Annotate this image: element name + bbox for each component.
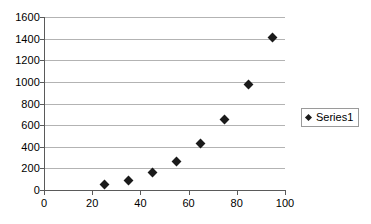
plot-area (44, 17, 285, 190)
gridline (44, 60, 285, 61)
gridline (44, 39, 285, 40)
x-axis-tick (92, 191, 93, 195)
y-axis-tick-label: 1200 (4, 55, 40, 66)
x-axis-tick (237, 191, 238, 195)
y-axis-tick-label: 1000 (4, 77, 40, 88)
gridline (44, 104, 285, 105)
y-axis-tick (40, 168, 44, 169)
data-point (172, 156, 182, 166)
data-point (268, 33, 278, 43)
y-axis-tick-label: 600 (4, 120, 40, 131)
y-axis-tick (40, 17, 44, 18)
y-axis-tick (40, 147, 44, 148)
data-point (220, 115, 230, 125)
y-axis-tick (40, 39, 44, 40)
x-axis-tick-label: 100 (265, 198, 305, 209)
legend-entry-label: Series1 (316, 111, 353, 123)
y-axis-tick-label: 800 (4, 99, 40, 110)
gridline (44, 168, 285, 169)
x-axis-tick-label: 80 (217, 198, 257, 209)
x-axis-tick (285, 191, 286, 195)
x-axis-line (44, 190, 286, 191)
x-axis-tick-label: 40 (120, 198, 160, 209)
y-axis-tick-label: 1600 (4, 12, 40, 23)
y-axis-tick-label: 200 (4, 163, 40, 174)
scatter-chart: 02004006008001000120014001600 0204060801… (0, 0, 371, 224)
y-axis-tick-label: 0 (4, 185, 40, 196)
data-point (123, 175, 133, 185)
y-axis-tick-label: 400 (4, 142, 40, 153)
gridline (44, 125, 285, 126)
data-point (99, 180, 109, 190)
x-axis-tick-label: 60 (169, 198, 209, 209)
y-axis-tick (40, 125, 44, 126)
chart-legend[interactable]: Series1 (301, 108, 359, 127)
y-axis-tick-label: 1400 (4, 34, 40, 45)
y-axis-line (44, 17, 45, 191)
y-axis-labels: 02004006008001000120014001600 (0, 0, 40, 224)
diamond-marker-icon (305, 113, 312, 120)
y-axis-tick (40, 82, 44, 83)
x-axis-tick (44, 191, 45, 195)
y-axis-tick (40, 60, 44, 61)
x-axis-tick (189, 191, 190, 195)
y-axis-tick (40, 104, 44, 105)
x-axis-tick-label: 0 (24, 198, 64, 209)
gridline (44, 17, 285, 18)
x-axis-tick-label: 20 (72, 198, 112, 209)
gridline (44, 147, 285, 148)
x-axis-tick (140, 191, 141, 195)
